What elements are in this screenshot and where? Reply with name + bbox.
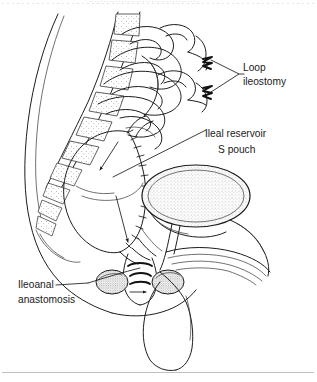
lumbar-sacral-spine	[36, 12, 140, 262]
loop-ileostomy-label-line2: ileostomy	[243, 76, 287, 87]
loop-ileostomy-label-line1: Loop	[243, 62, 266, 73]
ileoanal-anastomosis-label-line1: Ileoanal	[18, 279, 54, 290]
label-loop-ileostomy: Loop ileostomy	[211, 60, 287, 92]
figure-page: Loop ileostomy Ileal reservoir S pouch I…	[0, 0, 317, 382]
ileal-reservoir-label-line2: S pouch	[218, 144, 255, 155]
ileoanal-anastomosis-label-line2: anastomosis	[18, 294, 75, 305]
ileostomy-stoma-upper	[160, 25, 212, 71]
anatomical-illustration: Loop ileostomy Ileal reservoir S pouch I…	[0, 0, 317, 382]
ileal-s-pouch	[64, 116, 153, 253]
ileal-reservoir-label-line1: Ileal reservoir	[205, 128, 267, 139]
anal-sphincter-complex	[96, 254, 184, 305]
